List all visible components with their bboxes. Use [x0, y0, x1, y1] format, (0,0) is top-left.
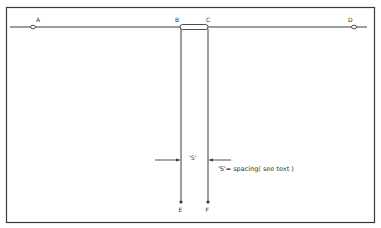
spacing-marker: 'S' [189, 154, 196, 161]
arrowhead-left-icon [209, 159, 213, 162]
label-b: B [175, 16, 179, 23]
label-d: D [348, 16, 353, 23]
diagram-frame [7, 8, 375, 223]
label-c: C [206, 16, 210, 23]
spacing-note: 'S'= spacing( see text ) [218, 165, 294, 173]
insulator-d-icon [352, 25, 357, 29]
center-insulator-icon [180, 25, 208, 30]
antenna-diagram: A B C D E F 'S' 'S'= spacing( see text ) [0, 0, 381, 228]
terminal-e-icon [179, 200, 182, 203]
label-f: F [206, 206, 210, 213]
arrowhead-right-icon [176, 159, 180, 162]
terminal-f-icon [206, 200, 209, 203]
label-e: E [179, 206, 183, 213]
insulator-a-icon [31, 25, 36, 29]
label-a: A [36, 16, 41, 23]
